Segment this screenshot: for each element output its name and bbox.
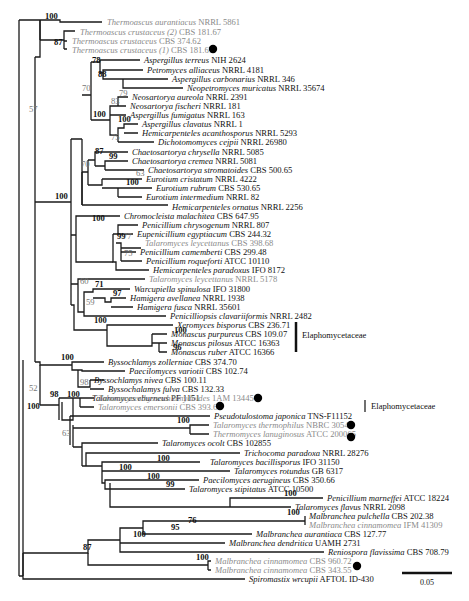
- species-name: Thermoascus aurantiacus: [107, 17, 197, 27]
- leaf-labels: Thermoascus aurantiacus NRRL 5861Thermoa…: [72, 17, 450, 584]
- talaromyces-byssochlamydoides-dot-icon: [254, 394, 262, 402]
- thermomyces-lanuginosus-dot-icon: [347, 433, 355, 441]
- bootstrap-value: 96: [173, 342, 182, 352]
- species-name: Talaromyces emersonii: [98, 402, 178, 412]
- bootstrap-value: 99: [166, 479, 175, 489]
- clade-label: Elaphomycetaceae: [302, 330, 367, 340]
- bootstrap-value: 98: [80, 377, 89, 387]
- bootstrap-value: 100: [133, 529, 146, 539]
- bootstrap-value: 87: [95, 146, 104, 156]
- bootstrap-value: 88: [98, 69, 107, 79]
- bootstrap-value: 100: [61, 352, 74, 362]
- strain-id: NRRL 82: [224, 192, 260, 202]
- bootstrap-value: 76: [188, 515, 197, 525]
- species-name: Talaromyces leycettanus: [149, 274, 234, 284]
- strain-id: NIH 2624: [209, 55, 246, 65]
- strain-id: AFTOL ID-430: [318, 574, 374, 584]
- species-name: Eurotium intermedium: [145, 192, 224, 202]
- leaf-label: Aspergillus terreus NIH 2624: [143, 55, 246, 65]
- leaf-label: Talaromyces emersonii CBS 393.64: [98, 402, 222, 412]
- leaf-label: Thermoascus crustaceus (1) CBS 181.67: [72, 45, 214, 55]
- strain-id: CBS 102855: [225, 438, 271, 448]
- bootstrap-value: 100: [126, 177, 139, 187]
- bootstrap-value: 75: [111, 132, 120, 142]
- bootstrap-value: 77: [123, 231, 132, 241]
- strain-id: ATCC 18224: [402, 493, 450, 503]
- thermoascus-crustaceus-1-dot-icon: [209, 45, 217, 53]
- strain-id: IFM 41309: [401, 520, 442, 530]
- bootstrap-value: 100: [92, 213, 105, 223]
- bootstrap-value: 100: [93, 109, 106, 119]
- leaf-label: Eurotium intermedium NRRL 82: [145, 192, 259, 202]
- strain-id: CBS 181.67: [169, 45, 214, 55]
- leaf-label: Talaromyces ocolt CBS 102855: [162, 438, 271, 448]
- bootstrap-value: 52: [29, 383, 38, 393]
- strain-id: NRRL 2256: [259, 202, 304, 212]
- bootstrap-value: 100: [157, 453, 170, 463]
- species-name: Dichotomomyces cejpii: [157, 137, 239, 147]
- phylogenetic-tree: Thermoascus aurantiacus NRRL 5861Thermoa…: [0, 0, 469, 601]
- scale-bar: 0.05: [402, 573, 452, 587]
- leaf-label: Dichotomomyces cejpii NRRL 26980: [157, 137, 287, 147]
- bootstrap-value: 59: [86, 297, 95, 307]
- leaf-label: Spiromastix wrcupii AFTOL ID-430: [249, 574, 374, 584]
- bootstrap-value: 60: [80, 276, 89, 286]
- bootstrap-value: 57: [29, 104, 38, 114]
- bootstrap-value: 78: [92, 55, 101, 65]
- bootstrap-value: 98: [50, 389, 59, 399]
- species-name: Talaromyces stipitatus: [189, 484, 267, 494]
- leaf-label: Monascus ruber ATCC 16366: [170, 347, 275, 357]
- talaromyces-thermophilus-dot-icon: [347, 421, 355, 429]
- species-name: Malbranchea dendritica: [228, 538, 313, 548]
- bootstrap-value: 75: [124, 248, 133, 258]
- species-name: Talaromyces ocolt: [162, 438, 225, 448]
- bootstrap-value: 100: [287, 507, 300, 517]
- bootstrap-value: 100: [27, 401, 40, 411]
- scale-bar-label: 0.05: [420, 578, 434, 587]
- bootstrap-value: 100: [45, 11, 58, 21]
- clade-annotations: ElaphomycetaceaeElaphomycetaceae: [296, 322, 436, 412]
- bootstrap-value: 79: [119, 88, 128, 98]
- bootstrap-value: 100: [67, 389, 80, 399]
- species-name: Thermoascus crustaceus (1): [72, 45, 169, 55]
- talaromyces-emersonii-dot-icon: [216, 402, 224, 410]
- bootstrap-value: 100: [196, 552, 209, 562]
- bootstrap-value: 100: [147, 471, 160, 481]
- strain-id: ATCC 16366: [227, 347, 275, 357]
- strain-id: NRRL 5178: [233, 274, 277, 284]
- bootstrap-value: 70: [81, 159, 90, 169]
- bootstrap-value: 100: [284, 488, 297, 498]
- species-name: Spiromastix wrcupii: [249, 574, 318, 584]
- bootstrap-value: 87: [83, 542, 92, 552]
- bootstrap-value: 83: [111, 96, 120, 106]
- strain-id: CBS 102.74: [204, 366, 249, 376]
- clade-label: Elaphomycetaceae: [371, 401, 436, 411]
- species-name: Aspergillus terreus: [143, 55, 210, 65]
- bootstrap-value: 70: [82, 83, 91, 93]
- strain-id: CBS 708.79: [405, 547, 449, 557]
- bootstrap-value: 100: [174, 325, 187, 335]
- strain-id: NRRL 26980: [238, 137, 286, 147]
- bootstrap-value: 100: [119, 462, 132, 472]
- bootstrap-value: 97: [113, 288, 122, 298]
- malbranchea-cinnamomea-343-dot-icon: [353, 562, 361, 570]
- bootstrap-value: 100: [94, 315, 107, 325]
- bootstrap-value: 95: [171, 522, 180, 532]
- bootstrap-value: 63: [62, 428, 71, 438]
- bootstrap-value: 100: [177, 415, 190, 425]
- leaf-label: Talaromyces leycettanus NRRL 5178: [149, 274, 277, 284]
- bootstrap-value: 100: [55, 191, 68, 201]
- strain-id: NRRL 35674: [276, 83, 325, 93]
- bootstrap-value: 100: [118, 114, 131, 124]
- bootstrap-value: 99: [109, 151, 118, 161]
- bootstrap-value: 87: [54, 37, 63, 47]
- leaf-label: Thermoascus aurantiacus NRRL 5861: [107, 17, 240, 27]
- strain-id: NRRL 5861: [196, 17, 240, 27]
- bootstrap-value: 71: [95, 279, 104, 289]
